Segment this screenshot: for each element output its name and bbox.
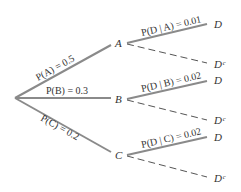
prob-d-given-b-label: P(D | B) = 0.02 <box>140 69 202 94</box>
tree-canvas: A B C P(A) = 0.5 P(B) = 0.3 P(C) = 0.2 P… <box>0 0 241 192</box>
branch-c-dc <box>127 156 207 177</box>
branch-a-dc <box>127 44 207 63</box>
prob-d-given-a-label: P(D | A) = 0.01 <box>140 13 202 38</box>
prob-c-label: P(C) = 0.2 <box>39 112 82 143</box>
prob-d-given-c-label: P(D | C) = 0.02 <box>140 125 202 150</box>
leaf-c-dc: Dᶜ <box>213 172 226 184</box>
node-b-label: B <box>115 93 122 105</box>
node-c-label: C <box>115 149 123 161</box>
probability-tree-diagram: A B C P(A) = 0.5 P(B) = 0.3 P(C) = 0.2 P… <box>0 0 241 192</box>
leaf-b-d: D <box>213 74 222 86</box>
prob-b-label: P(B) = 0.3 <box>46 85 88 97</box>
leaf-c-d: D <box>213 131 222 143</box>
node-a-label: A <box>114 37 122 49</box>
branch-b-dc <box>127 100 207 120</box>
leaf-a-dc: Dᶜ <box>213 58 226 70</box>
leaf-a-d: D <box>213 18 222 30</box>
leaf-b-dc: Dᶜ <box>213 114 226 126</box>
